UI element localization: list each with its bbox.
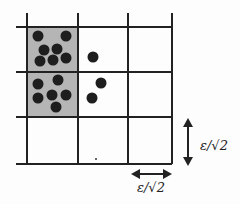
data-point xyxy=(61,31,72,42)
data-point xyxy=(61,53,72,64)
data-point xyxy=(88,52,99,63)
vertical-dimension-arrow xyxy=(183,118,193,166)
tiny-point xyxy=(95,158,97,160)
data-point xyxy=(39,45,50,56)
data-point xyxy=(33,79,44,90)
horizontal-dimension-label: ε/√2 xyxy=(137,180,165,195)
data-point xyxy=(47,90,58,101)
data-point xyxy=(87,93,98,104)
data-point xyxy=(33,31,44,42)
horizontal-dimension-arrow xyxy=(131,169,172,179)
data-point xyxy=(35,56,46,67)
data-point xyxy=(53,75,64,86)
data-point xyxy=(51,102,62,113)
data-point xyxy=(33,93,44,104)
vertical-dimension-label: ε/√2 xyxy=(200,138,228,153)
data-point xyxy=(61,90,72,101)
data-point xyxy=(96,78,107,89)
data-point xyxy=(52,44,63,55)
data-point xyxy=(48,55,59,66)
grid-diagram xyxy=(0,0,240,204)
